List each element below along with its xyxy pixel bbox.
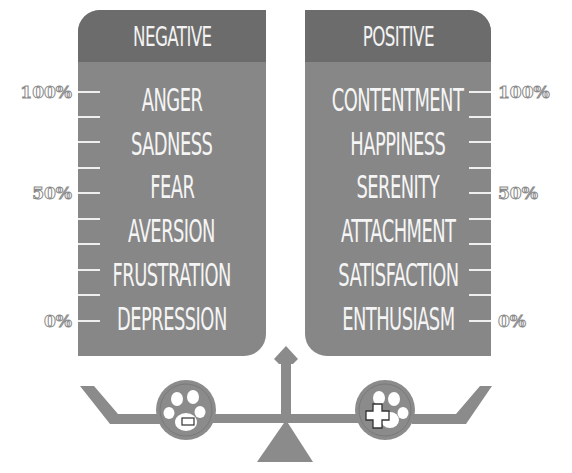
left-beam-arm — [80, 386, 160, 424]
scale-label-100: 100% — [20, 82, 72, 102]
scale-tick — [469, 116, 491, 118]
positive-title: POSITIVE — [362, 21, 433, 52]
negative-header: NEGATIVE — [78, 10, 266, 62]
scale-tick — [78, 91, 100, 93]
scale-tick — [78, 141, 100, 143]
scale-label-0: 0% — [44, 311, 72, 331]
scale-tick — [469, 141, 491, 143]
scale-label-50: 50% — [498, 183, 538, 203]
scale-tick — [469, 218, 491, 220]
positive-emotion: HAPPINESS — [305, 128, 491, 160]
scale-tick — [469, 320, 491, 322]
positive-panel: POSITIVE CONTENTMENT HAPPINESS SERENITY … — [305, 10, 491, 356]
positive-header: POSITIVE — [305, 10, 491, 62]
scale-tick — [78, 320, 100, 322]
scale-tick — [469, 269, 491, 271]
paw-minus-icon — [156, 380, 216, 440]
scale-label-50: 50% — [32, 183, 72, 203]
positive-emotion: SATISFACTION — [305, 259, 491, 291]
scale-tick — [469, 167, 491, 169]
negative-emotion: FEAR — [78, 171, 266, 203]
negative-emotion: SADNESS — [78, 128, 266, 160]
positive-emotion: ENTHUSIASM — [305, 303, 491, 335]
scale-label-0: 0% — [498, 311, 526, 331]
negative-emotion: DEPRESSION — [78, 303, 266, 335]
scale-tick — [469, 91, 491, 93]
scale-tick — [469, 243, 491, 245]
negative-panel: NEGATIVE ANGER SADNESS FEAR AVERSION FRU… — [78, 10, 266, 356]
scale-tick — [78, 269, 100, 271]
scale-tick — [78, 192, 100, 194]
scale-tick — [469, 294, 491, 296]
scale-label-100: 100% — [498, 82, 550, 102]
positive-emotion: SERENITY — [305, 171, 491, 203]
scale-tick — [78, 243, 100, 245]
pivot-pole — [281, 360, 291, 420]
negative-emotion: ANGER — [78, 84, 266, 116]
scale-tick — [78, 116, 100, 118]
paw-plus-icon — [355, 380, 415, 440]
negative-emotion: AVERSION — [78, 215, 266, 247]
negative-emotion: FRUSTRATION — [78, 259, 266, 291]
scale-tick — [78, 218, 100, 220]
positive-emotion: ATTACHMENT — [305, 215, 491, 247]
scale-tick — [78, 294, 100, 296]
scale-tick — [78, 167, 100, 169]
right-beam-arm — [412, 386, 492, 424]
scale-tick — [469, 192, 491, 194]
positive-emotion: CONTENTMENT — [305, 84, 491, 116]
pivot-arrow-icon — [274, 346, 298, 364]
fulcrum-triangle — [257, 420, 313, 462]
negative-title: NEGATIVE — [133, 21, 211, 52]
